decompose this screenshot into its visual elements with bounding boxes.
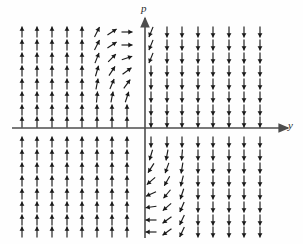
field-arrow [20,150,25,161]
field-arrow [95,163,100,174]
field-arrow [146,192,156,197]
field-arrow [196,117,201,128]
field-arrow [125,215,130,226]
field-arrow [180,92,185,103]
field-arrow [65,27,70,38]
field-arrow [164,190,171,199]
field-arrow [35,66,40,77]
field-arrow [258,92,263,103]
field-arrow [65,150,70,161]
field-arrow [258,227,263,238]
field-arrow [80,227,85,238]
field-arrow [227,79,232,90]
field-arrow [95,53,100,63]
field-arrow [95,40,100,50]
field-arrow [80,150,85,161]
field-arrow [211,137,216,148]
field-arrow [242,215,247,226]
field-arrow [149,92,154,103]
field-arrow [227,189,232,200]
field-arrow [35,163,40,174]
field-arrow [110,105,115,116]
field-arrow [35,53,40,64]
field-arrow [95,92,100,103]
field-arrow [179,202,184,212]
field-arrow [123,68,132,74]
field-arrow [107,42,116,48]
field-arrow [258,53,263,64]
field-arrow [107,29,116,35]
field-arrow [80,215,85,226]
field-arrow [242,92,247,103]
field-arrow [258,150,263,161]
field-arrow [164,176,169,186]
field-arrow [35,202,40,213]
field-arrow [95,105,100,116]
field-arrow [35,137,40,148]
field-arrow [242,176,247,187]
field-arrow [242,137,247,148]
field-arrow [180,79,185,90]
field-arrow [163,229,172,235]
field-arrow [196,105,201,116]
field-arrow [196,27,201,38]
field-arrow [20,137,25,148]
field-arrow [125,163,130,174]
field-arrow [180,27,185,38]
field-arrow [146,218,157,223]
field-arrow [258,66,263,77]
field-arrow [211,176,216,187]
field-arrow [196,40,201,51]
field-arrow [149,66,154,77]
field-arrow [146,230,157,235]
field-arrow [242,27,247,38]
field-arrow [125,137,130,148]
field-arrow [110,227,115,238]
field-arrow [50,105,55,116]
field-arrow [148,53,153,63]
field-arrow [196,227,201,238]
field-arrow [227,40,232,51]
field-arrow [227,227,232,238]
field-arrow [165,53,170,64]
field-arrow [227,150,232,161]
field-arrow [180,105,185,116]
field-arrow [149,117,154,128]
field-arrow [163,203,171,210]
field-arrow [122,43,133,48]
field-arrow [65,176,70,187]
field-arrow [50,150,55,161]
field-arrow [35,189,40,200]
field-arrow [196,215,201,226]
field-arrow [110,215,115,226]
field-arrow [148,40,153,50]
field-arrow [179,227,184,237]
field-arrow [80,105,85,116]
field-arrow [125,202,130,213]
field-arrow [258,79,263,90]
field-arrow [211,227,216,238]
field-arrow [95,79,100,90]
field-arrow [180,66,185,77]
field-arrow [211,117,216,128]
field-arrow [110,92,115,103]
field-arrow [80,92,85,103]
field-arrow [125,150,130,161]
field-arrow [50,92,55,103]
field-arrow [179,163,184,174]
field-arrow [211,92,216,103]
field-arrow [165,66,170,77]
field-arrow [80,117,85,128]
field-arrow [95,202,100,213]
field-arrow [65,92,70,103]
field-arrow [211,105,216,116]
field-arrow [50,66,55,77]
field-arrow [242,117,247,128]
field-arrow [258,40,263,51]
field-arrow [122,30,133,35]
field-arrow [211,79,216,90]
field-arrow [211,202,216,213]
field-arrow [148,163,154,172]
field-arrow [242,53,247,64]
field-arrow [95,227,100,238]
